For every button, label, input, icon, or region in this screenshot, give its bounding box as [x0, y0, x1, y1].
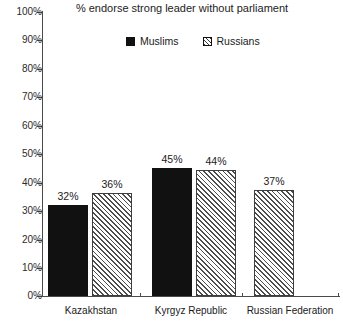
y-tick-label-20: 20% — [10, 235, 42, 245]
bar-kazakhstan-muslims — [48, 205, 88, 296]
bar-kyrgyz-republic-russians — [196, 170, 236, 296]
plot-area: 32% 36% 45% 44% 37% Kazakhstan Kyrgyz Re… — [42, 0, 343, 321]
bar-value-russian-federation-russians: 37% — [251, 176, 297, 187]
x-category-label-russian-federation: Russian Federation — [242, 305, 338, 316]
x-tick-3 — [338, 293, 339, 297]
bar-value-kyrgyz-republic-russians: 44% — [193, 156, 239, 167]
bar-value-kazakhstan-russians: 36% — [89, 179, 135, 190]
bar-kazakhstan-russians — [92, 193, 132, 296]
x-tick-2 — [242, 293, 243, 297]
x-tick-1 — [140, 293, 141, 297]
y-tick-label-100: 100% — [10, 7, 42, 17]
bar-value-kyrgyz-republic-muslims: 45% — [149, 154, 195, 165]
y-tick-label-30: 30% — [10, 206, 42, 216]
bar-chart: % endorse strong leader without parliame… — [0, 0, 343, 321]
y-tick-label-50: 50% — [10, 149, 42, 159]
y-tick-label-70: 70% — [10, 92, 42, 102]
bar-kyrgyz-republic-muslims — [152, 168, 192, 296]
y-axis-ticks: 100% 90% 80% 70% 60% 50% 40% 30% 20% 10%… — [0, 0, 42, 321]
y-tick-label-60: 60% — [10, 121, 42, 131]
x-category-label-kazakhstan: Kazakhstan — [42, 305, 140, 316]
y-tick-label-90: 90% — [10, 35, 42, 45]
x-category-label-kyrgyz-republic: Kyrgyz Republic — [140, 305, 242, 316]
bar-russian-federation-russians — [254, 190, 294, 296]
y-tick-label-80: 80% — [10, 64, 42, 74]
y-tick-label-40: 40% — [10, 178, 42, 188]
x-tick-0 — [42, 293, 43, 297]
y-tick-label-10: 10% — [10, 263, 42, 273]
y-tick-label-0: 0% — [10, 291, 42, 301]
bar-value-kazakhstan-muslims: 32% — [45, 191, 91, 202]
